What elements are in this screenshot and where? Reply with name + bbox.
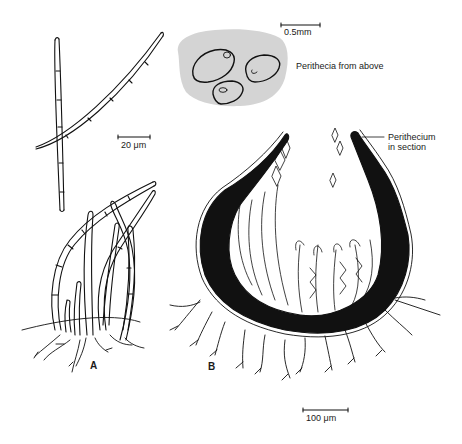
label-perithecium-line2: in section	[388, 142, 426, 152]
panel-label-b: B	[208, 361, 215, 372]
label-perithecia-from-above: Perithecia from above	[296, 61, 384, 71]
panel-b-perithecium-section	[170, 128, 440, 380]
scale-label-hyphae: 20 μm	[121, 140, 146, 150]
scale-label-section: 100 μm	[306, 413, 336, 423]
label-perithecium-line1: Perithecium	[388, 132, 436, 142]
perithecia-from-above	[178, 29, 288, 106]
scale-bar-hyphae	[118, 135, 150, 139]
panel-label-a: A	[90, 360, 97, 371]
scale-label-top: 0.5mm	[284, 27, 312, 37]
scientific-figure: 0.5mm Perithecia from above 20 μm Perith…	[0, 0, 462, 444]
illustration-canvas	[0, 0, 462, 444]
scale-bar-section	[303, 408, 348, 412]
panel-a-hyphae	[22, 32, 163, 372]
